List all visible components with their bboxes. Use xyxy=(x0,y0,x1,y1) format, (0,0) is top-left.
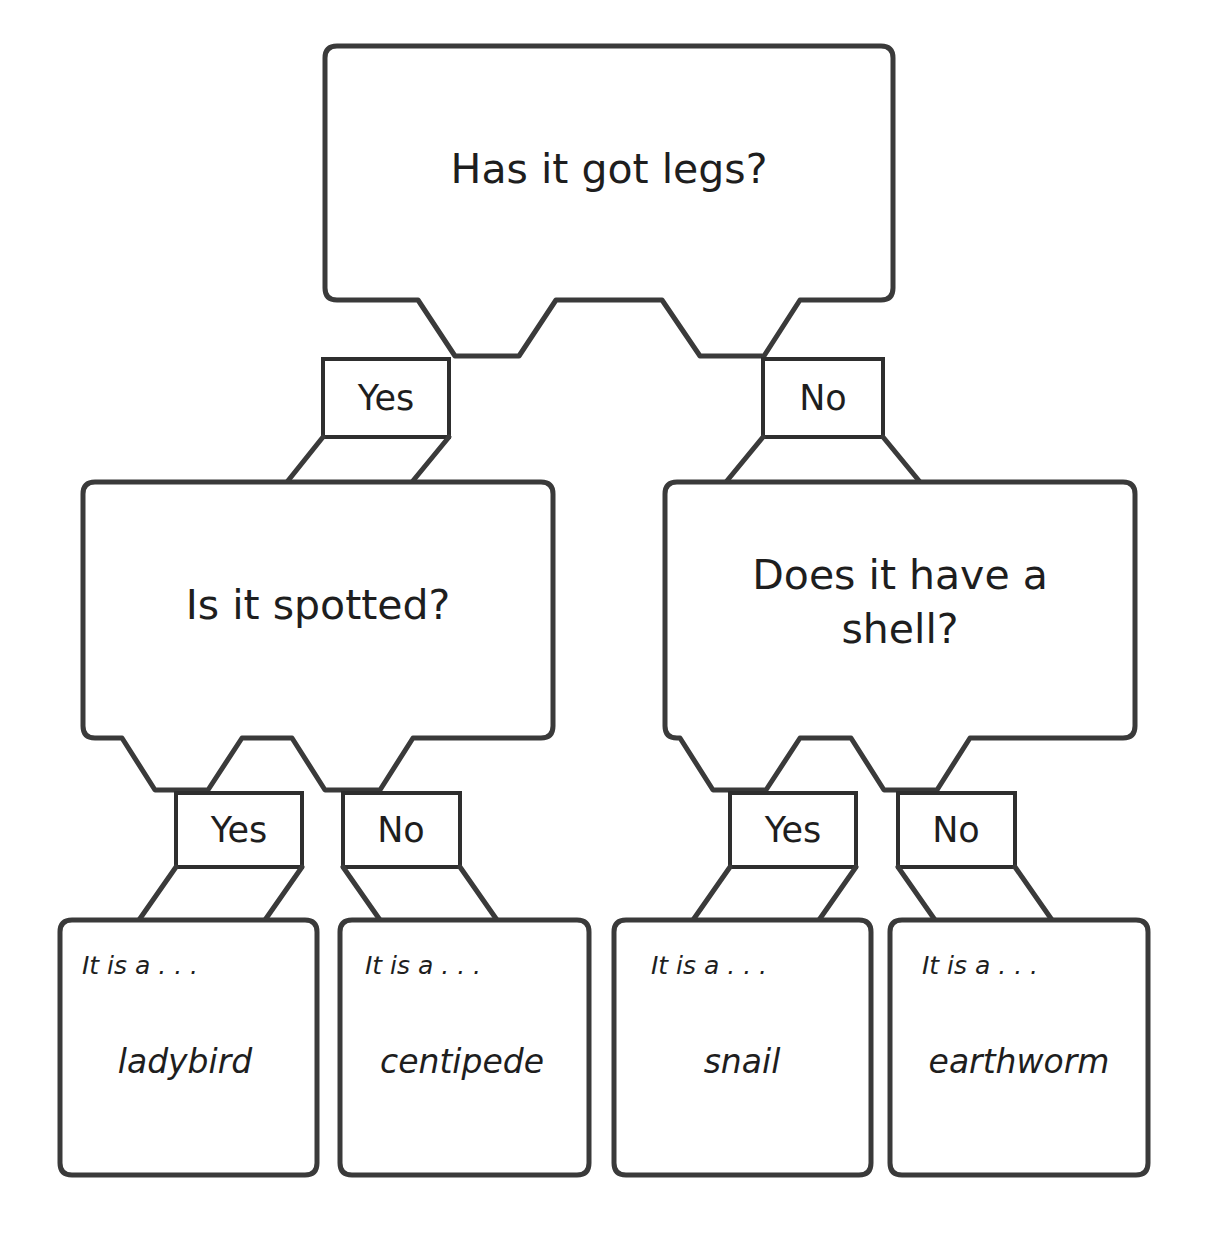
root-no-label: No xyxy=(799,378,847,418)
q3-question-line-1: Does it have a xyxy=(752,551,1048,599)
leaf4-intro-label: It is a . . . xyxy=(922,951,1038,980)
leaf2-answer-label: centipede xyxy=(380,1042,544,1081)
edge-label-root-no[interactable]: No xyxy=(763,359,883,437)
node-root[interactable]: Has it got legs? xyxy=(325,46,893,356)
node-q2[interactable]: Is it spotted? xyxy=(83,482,553,790)
decision-tree-diagram: Has it got legs? Yes No Is it spotted? D… xyxy=(0,0,1209,1250)
edge-label-q3-yes[interactable]: Yes xyxy=(730,793,856,867)
connector-q3-no-right xyxy=(1015,867,1052,920)
connector-root-yes-right xyxy=(412,437,449,482)
node-q3[interactable]: Does it have a shell? xyxy=(665,482,1135,790)
connector-q2-yes-right xyxy=(265,867,302,920)
leaf-node-earthworm[interactable]: It is a . . . earthworm xyxy=(890,920,1148,1175)
leaf3-intro-label: It is a . . . xyxy=(651,951,767,980)
q2-yes-label: Yes xyxy=(210,810,268,850)
connector-root-no-right xyxy=(883,437,920,482)
edge-label-q3-no[interactable]: No xyxy=(898,793,1015,867)
connector-root-no-left xyxy=(726,437,763,482)
edge-label-q2-no[interactable]: No xyxy=(343,793,460,867)
connector-root-yes-left xyxy=(287,437,323,482)
leaf1-intro-label: It is a . . . xyxy=(82,951,198,980)
edge-label-root-yes[interactable]: Yes xyxy=(323,359,449,437)
edge-label-q2-yes[interactable]: Yes xyxy=(176,793,302,867)
leaf1-answer-label: ladybird xyxy=(118,1042,254,1081)
leaf-node-centipede[interactable]: It is a . . . centipede xyxy=(340,920,589,1175)
connector-q2-no-right xyxy=(460,867,497,920)
q3-no-label: No xyxy=(932,810,980,850)
leaf-node-snail[interactable]: It is a . . . snail xyxy=(614,920,871,1175)
connector-q3-no-left xyxy=(898,867,935,920)
leaf2-intro-label: It is a . . . xyxy=(365,951,481,980)
connector-q3-yes-left xyxy=(693,867,730,920)
q2-question-label: Is it spotted? xyxy=(186,581,451,629)
q3-question-line-2: shell? xyxy=(841,605,958,653)
leaf3-answer-label: snail xyxy=(704,1042,781,1081)
decision-tree-canvas: Has it got legs? Yes No Is it spotted? D… xyxy=(0,0,1209,1250)
q2-box-outline xyxy=(83,482,553,790)
leaf4-answer-label: earthworm xyxy=(929,1042,1110,1081)
q2-no-label: No xyxy=(377,810,425,850)
root-yes-label: Yes xyxy=(357,378,415,418)
root-box-outline xyxy=(325,46,893,356)
leaf-node-ladybird[interactable]: It is a . . . ladybird xyxy=(60,920,317,1175)
connector-q3-yes-right xyxy=(819,867,856,920)
q3-yes-label: Yes xyxy=(764,810,822,850)
root-question-label: Has it got legs? xyxy=(451,145,768,193)
connector-q2-no-left xyxy=(343,867,380,920)
connector-q2-yes-left xyxy=(139,867,176,920)
